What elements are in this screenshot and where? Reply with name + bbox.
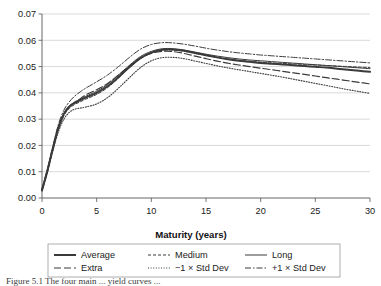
legend-item-label: Long bbox=[272, 250, 292, 260]
y-tick-label: 0.05 bbox=[18, 62, 36, 72]
x-tick-label: 20 bbox=[256, 206, 266, 216]
chart-legend: AverageMediumLongExtra−1 × Std Dev+1 × S… bbox=[48, 244, 340, 277]
x-tick-label: 5 bbox=[94, 206, 99, 216]
y-tick-label: 0.03 bbox=[18, 114, 36, 124]
y-tick-label: 0.00 bbox=[18, 193, 36, 203]
figure-container: 0.000.010.020.030.040.050.060.07 0510152… bbox=[0, 0, 381, 286]
series-line bbox=[42, 57, 370, 191]
y-tick-label: 0.01 bbox=[18, 167, 36, 177]
figure-caption: Figure 5.1 The four main ... yield curve… bbox=[6, 276, 378, 286]
y-tick-label: 0.06 bbox=[18, 36, 36, 46]
y-tick-label: 0.04 bbox=[18, 88, 36, 98]
y-tick-label: 0.07 bbox=[18, 9, 36, 19]
data-series-group bbox=[42, 43, 370, 192]
x-axis-title: Maturity (years) bbox=[155, 229, 226, 240]
series-line bbox=[42, 43, 370, 190]
x-tick-label: 15 bbox=[201, 206, 211, 216]
x-tick-label: 0 bbox=[39, 206, 44, 216]
x-axis-tick-labels: 051015202530 bbox=[39, 198, 375, 216]
y-axis-tick-labels: 0.000.010.020.030.040.050.060.07 bbox=[18, 9, 42, 203]
x-tick-label: 30 bbox=[365, 206, 375, 216]
line-chart: 0.000.010.020.030.040.050.060.07 0510152… bbox=[0, 0, 381, 286]
y-tick-label: 0.02 bbox=[18, 141, 36, 151]
legend-item-label: +1 × Std Dev bbox=[272, 263, 326, 273]
x-tick-label: 25 bbox=[310, 206, 320, 216]
legend-item-label: Extra bbox=[81, 263, 103, 273]
series-line bbox=[42, 51, 370, 190]
legend-item-label: Medium bbox=[175, 250, 208, 260]
series-line bbox=[42, 49, 370, 190]
series-line bbox=[42, 50, 370, 190]
x-tick-label: 10 bbox=[146, 206, 156, 216]
legend-item-label: −1 × Std Dev bbox=[175, 263, 229, 273]
legend-item-label: Average bbox=[81, 250, 115, 260]
